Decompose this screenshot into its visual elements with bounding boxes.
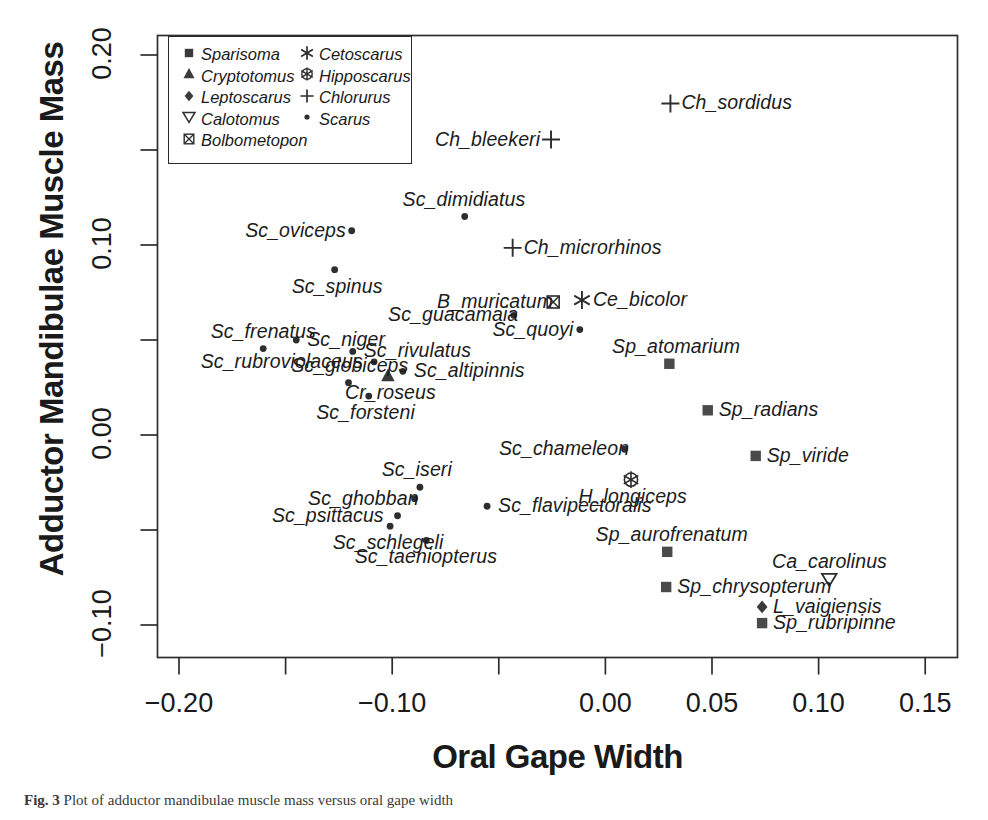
point-label-sc_psittacus: Sc_psittacus bbox=[272, 504, 384, 527]
point-label-sp_radians: Sp_radians bbox=[719, 398, 819, 421]
point-label-sc_frenatus: Sc_frenatus bbox=[211, 320, 316, 343]
marker-sc_schlegeli bbox=[387, 523, 394, 530]
point-label-sc_altipinnis: Sc_altipinnis bbox=[414, 359, 525, 382]
legend-item-label: Calotomus bbox=[201, 110, 280, 129]
point-label-sc_forsteni: Sc_forsteni bbox=[316, 401, 415, 424]
marker-sp_chrysopterum bbox=[661, 582, 671, 592]
legend-item-calotomus[interactable]: Calotomus bbox=[179, 109, 307, 131]
legend-box: SparisomaCryptotomusLeptoscarusCalotomus… bbox=[168, 36, 412, 164]
point-label-sc_dimidiatus: Sc_dimidiatus bbox=[403, 188, 526, 211]
filled-triangle-up-icon bbox=[179, 65, 199, 87]
open-triangle-down-icon bbox=[179, 108, 199, 130]
point-label-ch_bleekeri: Ch_bleekeri bbox=[435, 128, 540, 151]
legend-item-cryptotomus[interactable]: Cryptotomus bbox=[179, 66, 307, 88]
point-label-ca_carolinus: Ca_carolinus bbox=[772, 550, 887, 573]
legend-item-leptoscarus[interactable]: Leptoscarus bbox=[179, 87, 307, 109]
legend-item-label: Bolbometopon bbox=[201, 131, 307, 150]
point-label-ce_bicolor: Ce_bicolor bbox=[593, 288, 687, 311]
marker-sp_aurofrenatum bbox=[662, 547, 672, 557]
marker-ch_microrhinos bbox=[504, 239, 522, 257]
marker-ch_bleekeri bbox=[542, 131, 560, 149]
marker-sc_quoyi bbox=[576, 326, 583, 333]
point-label-sc_taeniopterus: Sc_taeniopterus bbox=[355, 545, 497, 568]
marker-sp_atomarium bbox=[664, 359, 674, 369]
small-dot-icon bbox=[297, 108, 317, 130]
marker-sp_rubripinne bbox=[757, 618, 767, 628]
point-label-sc_spinus: Sc_spinus bbox=[292, 275, 383, 298]
marker-sc_psittacus bbox=[394, 512, 401, 519]
asterisk-icon bbox=[297, 44, 317, 66]
figure-container: Adductor Mandibulae Muscle Mass Oral Gap… bbox=[0, 0, 988, 820]
legend-item-label: Chlorurus bbox=[319, 88, 391, 107]
marker-sp_radians bbox=[703, 405, 713, 415]
point-label-sc_oviceps: Sc_oviceps bbox=[245, 219, 346, 242]
point-label-sc_chameleon: Sc_chameleon bbox=[499, 437, 629, 460]
point-label-sc_globiceps: Sc_globiceps bbox=[291, 354, 408, 377]
point-label-h_longiceps: H_longiceps bbox=[578, 485, 686, 508]
marker-sc_flavipectoralis bbox=[484, 503, 491, 510]
point-label-sp_aurofrenatum: Sp_aurofrenatum bbox=[596, 523, 748, 546]
crossed-circle-icon bbox=[297, 65, 317, 87]
plus-icon bbox=[297, 87, 317, 109]
caption-text: Plot of adductor mandibulae muscle mass … bbox=[64, 792, 454, 808]
legend-item-chlorurus[interactable]: Chlorurus bbox=[297, 87, 411, 109]
marker-ce_bicolor bbox=[574, 291, 590, 309]
legend-item-hipposcarus[interactable]: Hipposcarus bbox=[297, 66, 411, 88]
marker-sp_viride bbox=[751, 451, 761, 461]
legend-item-sparisoma[interactable]: Sparisoma bbox=[179, 44, 307, 66]
legend-item-label: Sparisoma bbox=[201, 45, 280, 64]
caption-prefix: Fig. 3 bbox=[24, 792, 60, 808]
marker-sc_dimidiatus bbox=[461, 213, 468, 220]
marker-l_vaigiensis bbox=[757, 601, 768, 614]
crossed-square-icon bbox=[179, 130, 199, 152]
point-label-sc_quoyi: Sc_quoyi bbox=[492, 318, 573, 341]
point-label-b_muricatum: B_muricatum bbox=[437, 290, 553, 313]
legend-item-label: Cetoscarus bbox=[319, 45, 402, 64]
legend-column-right: CetoscarusHipposcarusChlorurusScarus bbox=[297, 44, 411, 130]
filled-diamond-icon bbox=[179, 87, 199, 109]
point-label-ch_sordidus: Ch_sordidus bbox=[681, 91, 792, 114]
point-label-ch_microrhinos: Ch_microrhinos bbox=[524, 236, 662, 259]
figure-caption: Fig. 3 Plot of adductor mandibulae muscl… bbox=[24, 792, 968, 809]
legend-item-label: Leptoscarus bbox=[201, 88, 291, 107]
legend-column-left: SparisomaCryptotomusLeptoscarusCalotomus… bbox=[179, 44, 307, 152]
point-label-sc_iseri: Sc_iseri bbox=[382, 458, 452, 481]
filled-square-icon bbox=[179, 44, 199, 66]
y-tick-marks bbox=[141, 55, 158, 625]
marker-sc_spinus bbox=[331, 266, 338, 273]
legend-item-label: Hipposcarus bbox=[319, 67, 411, 86]
marker-ch_sordidus bbox=[661, 94, 679, 112]
marker-sc_oviceps bbox=[348, 227, 355, 234]
point-label-cr_roseus: Cr_roseus bbox=[345, 381, 436, 404]
point-label-sp_viride: Sp_viride bbox=[767, 444, 849, 467]
legend-item-label: Scarus bbox=[319, 110, 370, 129]
legend-item-label: Cryptotomus bbox=[201, 67, 295, 86]
legend-item-scarus[interactable]: Scarus bbox=[297, 109, 411, 131]
legend-item-bolbometopon[interactable]: Bolbometopon bbox=[179, 130, 307, 152]
point-label-l_vaigiensis: L_vaigiensis bbox=[773, 595, 882, 618]
x-tick-marks bbox=[179, 658, 925, 675]
legend-item-cetoscarus[interactable]: Cetoscarus bbox=[297, 44, 411, 66]
point-label-sp_atomarium: Sp_atomarium bbox=[612, 335, 740, 358]
